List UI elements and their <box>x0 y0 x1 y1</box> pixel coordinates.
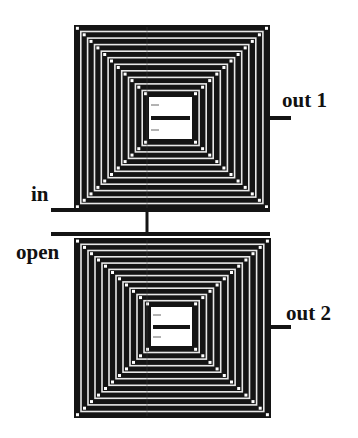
coil-diagram-graphic <box>0 0 358 438</box>
spiral-coils <box>74 25 271 418</box>
label-out-2: out 2 <box>286 303 331 324</box>
coil-2 <box>74 238 271 418</box>
label-out-1: out 1 <box>282 90 327 111</box>
coil-1 <box>74 25 270 210</box>
coil-diagram: out 1 in open out 2 <box>0 0 358 438</box>
label-in: in <box>31 184 49 205</box>
label-open: open <box>16 242 59 263</box>
